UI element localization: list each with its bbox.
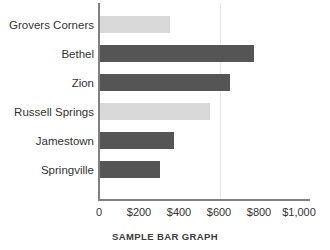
gridline-600 (220, 3, 221, 201)
category-label: Bethel (0, 49, 94, 61)
x-tick-label: $800 (247, 207, 271, 218)
bar-chart: Grovers Corners Bethel Zion Russell Spri… (0, 0, 330, 250)
category-label: Springville (0, 165, 94, 177)
bar-springville (100, 161, 160, 178)
category-label: Zion (0, 78, 94, 90)
x-tick-label: $600 (207, 207, 231, 218)
category-label: Jamestown (0, 136, 94, 148)
x-tick-label: 0 (96, 207, 102, 218)
x-tick-label: $1,000 (282, 207, 316, 218)
category-label: Russell Springs (0, 107, 94, 119)
bar-russell-springs (100, 103, 210, 120)
x-tick-label: $200 (127, 207, 151, 218)
y-axis-line (98, 3, 100, 201)
bar-grovers-corners (100, 16, 170, 33)
chart-caption: SAMPLE BAR GRAPH (0, 232, 330, 242)
plot-area (98, 3, 310, 201)
x-tick-label: $400 (167, 207, 191, 218)
bar-jamestown (100, 132, 174, 149)
bar-bethel (100, 45, 254, 62)
bar-zion (100, 74, 230, 91)
x-axis-line (98, 199, 310, 201)
category-label: Grovers Corners (0, 20, 94, 32)
